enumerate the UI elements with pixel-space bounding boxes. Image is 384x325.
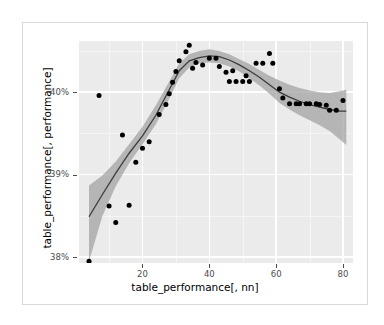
data-point [217,64,222,69]
x-tick-label: 80 [323,270,363,279]
data-point [140,146,145,151]
x-tick-mark [142,264,143,268]
data-point [224,70,229,75]
data-point [324,103,329,108]
data-point [107,204,112,209]
data-point [234,79,239,84]
data-point [280,95,285,100]
data-point [173,69,178,74]
data-point [287,101,292,106]
y-tick-mark [73,257,77,258]
data-point [87,259,92,263]
data-point [120,133,125,138]
x-axis-title: table_performance[, nn] [23,281,367,293]
data-point [147,139,152,144]
figure-background: 38%39%40% 20406080 table_performance[, n… [22,22,368,305]
data-point [127,203,132,208]
data-point [267,51,272,56]
data-point [254,61,259,66]
data-point [307,101,312,106]
data-point [163,102,168,107]
data-point [244,73,249,78]
data-point [270,61,275,66]
data-point [133,160,138,165]
x-tick-label: 20 [122,270,162,279]
data-point [297,101,302,106]
data-point [200,62,205,67]
plot-panel [79,41,353,263]
data-point [207,56,212,61]
x-tick-mark [209,264,210,268]
data-point [277,86,282,91]
x-tick-mark [276,264,277,268]
loess-smooth-line [89,56,346,217]
data-point [167,91,172,96]
data-point [317,102,322,107]
data-point [227,79,232,84]
data-point [260,61,265,66]
data-point [240,79,245,84]
data-point [157,112,162,117]
data-point [247,79,252,84]
data-point [340,98,345,103]
y-axis-title: table_performance[, performance] [41,38,53,278]
data-point [214,56,219,61]
data-point [334,108,339,113]
data-point [170,80,175,85]
x-tick-label: 60 [256,270,296,279]
x-tick-label: 40 [189,270,229,279]
data-point [177,58,182,63]
x-tick-mark [343,264,344,268]
data-point [193,60,198,65]
data-point [230,68,235,73]
y-tick-mark [73,175,77,176]
data-point [97,93,102,98]
y-tick-mark [73,92,77,93]
data-point [187,43,192,48]
data-point [190,66,195,71]
plot-area [79,41,353,263]
data-point [327,108,332,113]
data-point [183,49,188,54]
data-point [113,220,118,225]
